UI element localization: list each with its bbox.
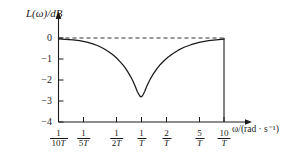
y-tick-label-m1: −1 <box>34 54 52 64</box>
x-tick-label-1-over-T: 1 T <box>137 129 146 149</box>
y-tick-label-m2: −2 <box>34 75 52 85</box>
magnitude-response-curve <box>59 39 225 97</box>
x-tick-marks <box>59 117 225 122</box>
x-axis-label: ω/(rad · s⁻¹) <box>232 125 279 135</box>
y-tick-label-m4: −4 <box>34 117 52 127</box>
x-tick-label-1-over-5T: 1 5T <box>77 129 91 149</box>
y-tick-label-0: 0 <box>34 33 52 43</box>
x-tick-label-10-over-T: 10 T <box>218 129 231 149</box>
x-tick-label-5-over-T: 5 T <box>195 129 204 149</box>
x-tick-label-1-over-10T: 1 10T <box>49 129 67 149</box>
x-tick-label-2-over-T: 2 T <box>162 129 171 149</box>
x-tick-label-1-over-2T: 1 2T <box>110 129 124 149</box>
bode-magnitude-figure: L(ω)/dB 0 −1 −2 −3 −4 1 10T 1 5T 1 2T 1 … <box>0 0 297 157</box>
y-tick-marks <box>59 38 64 122</box>
y-axis-label: L(ω)/dB <box>26 8 63 19</box>
y-tick-label-m3: −3 <box>34 96 52 106</box>
